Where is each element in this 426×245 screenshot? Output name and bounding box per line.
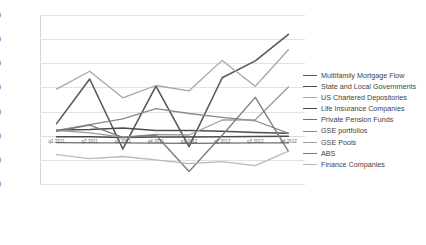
y-tick-label: 0 xyxy=(0,131,1,141)
x-tick-label: q4 2012 xyxy=(280,139,297,144)
y-tick-label: 20 xyxy=(0,82,1,92)
legend-item[interactable]: Private Pension Funds xyxy=(303,114,426,125)
legend-item[interactable]: Finance Companies xyxy=(303,159,426,170)
y-tick-label: −10 xyxy=(0,155,1,165)
x-tick-label: q3 2011 xyxy=(115,139,131,144)
x-tick-label: q1 2011 xyxy=(48,139,64,144)
x-tick-label: q2 2012 xyxy=(214,139,231,144)
x-tick-label: q2 2011 xyxy=(82,139,98,144)
legend-item[interactable]: Multifamily Mortgage Flow xyxy=(303,70,426,81)
gridline xyxy=(40,184,305,185)
legend-item-label: ABS xyxy=(321,150,335,157)
series-line xyxy=(57,50,289,98)
y-tick-label: 10 xyxy=(0,107,1,117)
legend-item-label: US Chartered Depositories xyxy=(321,94,407,101)
legend-swatch-icon xyxy=(303,164,317,165)
legend-item-label: State and Local Governments xyxy=(321,83,416,90)
legend-swatch-icon xyxy=(303,153,317,154)
x-tick-label: q4 2011 xyxy=(148,139,164,144)
legend-item[interactable]: GSE Pools xyxy=(303,137,426,148)
legend-swatch-icon xyxy=(303,97,317,98)
legend-swatch-icon xyxy=(303,142,317,143)
legend-item[interactable]: ABS xyxy=(303,148,426,159)
legend-item-label: Private Pension Funds xyxy=(321,116,393,123)
legend-swatch-icon xyxy=(303,86,317,87)
line-chart: Axis Title 50403020100−10−20 q1 2011q2 2… xyxy=(0,0,426,245)
legend-swatch-icon xyxy=(303,131,317,132)
y-tick-label: 50 xyxy=(0,10,1,20)
legend-item-label: GSE Pools xyxy=(321,139,356,146)
legend-item-label: Life Insurance Companies xyxy=(321,105,405,112)
series-lines xyxy=(40,15,305,184)
legend-item-label: GSE portfolios xyxy=(321,127,367,134)
plot-area: 50403020100−10−20 q1 2011q2 2011q3 2011q… xyxy=(40,15,305,184)
chart-legend: Multifamily Mortgage FlowState and Local… xyxy=(303,70,426,170)
legend-item[interactable]: US Chartered Depositories xyxy=(303,92,426,103)
x-tick-label: q3 2012 xyxy=(247,139,264,144)
legend-item[interactable]: GSE portfolios xyxy=(303,125,426,136)
legend-item[interactable]: Life Insurance Companies xyxy=(303,103,426,114)
legend-item-label: Finance Companies xyxy=(321,161,385,168)
x-tick-label: q1 2012 xyxy=(181,139,198,144)
series-line xyxy=(57,136,289,137)
legend-swatch-icon xyxy=(303,75,317,76)
legend-item-label: Multifamily Mortgage Flow xyxy=(321,72,404,79)
legend-item[interactable]: State and Local Governments xyxy=(303,81,426,92)
y-tick-label: 40 xyxy=(0,34,1,44)
y-tick-label: 30 xyxy=(0,58,1,68)
legend-swatch-icon xyxy=(303,108,317,109)
y-tick-label: −20 xyxy=(0,179,1,189)
legend-swatch-icon xyxy=(303,119,317,120)
